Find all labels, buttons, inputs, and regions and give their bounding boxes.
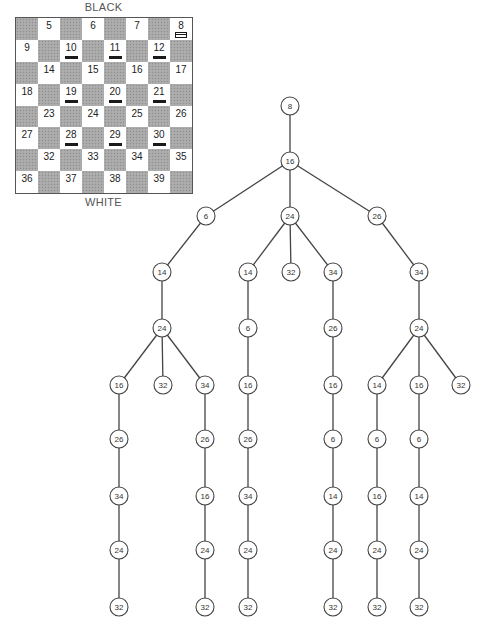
tree-node: 8 bbox=[281, 97, 299, 115]
move-tree: 8166242614143234342462624163234161614163… bbox=[0, 0, 490, 630]
node-label: 32 bbox=[329, 603, 338, 612]
node-label: 34 bbox=[115, 492, 124, 501]
node-label: 24 bbox=[329, 546, 338, 555]
node-label: 24 bbox=[201, 546, 210, 555]
node-label: 34 bbox=[415, 268, 424, 277]
node-label: 14 bbox=[415, 492, 424, 501]
tree-node: 32 bbox=[110, 598, 128, 616]
node-label: 14 bbox=[329, 492, 338, 501]
tree-node: 34 bbox=[239, 487, 257, 505]
tree-node: 26 bbox=[324, 319, 342, 337]
tree-node: 24 bbox=[110, 541, 128, 559]
node-label: 26 bbox=[115, 435, 124, 444]
node-label: 32 bbox=[415, 603, 424, 612]
tree-edge bbox=[162, 216, 206, 272]
tree-node: 32 bbox=[196, 598, 214, 616]
tree-edge bbox=[377, 216, 419, 272]
tree-node: 24 bbox=[410, 541, 428, 559]
node-label: 26 bbox=[373, 212, 382, 221]
tree-node: 6 bbox=[239, 319, 257, 337]
tree-node: 16 bbox=[281, 152, 299, 170]
tree-node: 34 bbox=[324, 263, 342, 281]
node-label: 32 bbox=[201, 603, 210, 612]
node-label: 32 bbox=[287, 268, 296, 277]
node-label: 6 bbox=[331, 435, 336, 444]
tree-edge bbox=[162, 328, 205, 385]
node-label: 26 bbox=[244, 435, 253, 444]
node-label: 24 bbox=[115, 546, 124, 555]
node-label: 16 bbox=[244, 381, 253, 390]
tree-node: 16 bbox=[239, 376, 257, 394]
tree-node: 6 bbox=[324, 430, 342, 448]
node-label: 16 bbox=[286, 157, 295, 166]
tree-edges bbox=[119, 106, 461, 607]
tree-node: 24 bbox=[196, 541, 214, 559]
tree-node: 6 bbox=[368, 430, 386, 448]
tree-node: 32 bbox=[324, 598, 342, 616]
node-label: 32 bbox=[244, 603, 253, 612]
tree-node: 34 bbox=[110, 487, 128, 505]
node-label: 34 bbox=[201, 381, 210, 390]
tree-node: 32 bbox=[154, 376, 172, 394]
node-label: 24 bbox=[373, 546, 382, 555]
node-label: 24 bbox=[244, 546, 253, 555]
node-label: 24 bbox=[158, 324, 167, 333]
node-label: 16 bbox=[115, 381, 124, 390]
tree-edge bbox=[419, 328, 461, 385]
tree-node: 14 bbox=[153, 263, 171, 281]
tree-node: 24 bbox=[410, 319, 428, 337]
node-label: 6 bbox=[417, 435, 422, 444]
tree-edge bbox=[206, 161, 290, 216]
tree-node: 26 bbox=[110, 430, 128, 448]
tree-node: 16 bbox=[324, 376, 342, 394]
tree-edge bbox=[290, 216, 333, 272]
node-label: 34 bbox=[244, 492, 253, 501]
tree-node: 24 bbox=[368, 541, 386, 559]
tree-node: 14 bbox=[239, 263, 257, 281]
node-label: 16 bbox=[201, 492, 210, 501]
tree-node: 34 bbox=[410, 263, 428, 281]
node-label: 32 bbox=[115, 603, 124, 612]
tree-edge bbox=[119, 328, 162, 385]
tree-node: 32 bbox=[410, 598, 428, 616]
node-label: 6 bbox=[246, 324, 251, 333]
node-label: 8 bbox=[288, 102, 293, 111]
tree-node: 24 bbox=[324, 541, 342, 559]
tree-node: 16 bbox=[196, 487, 214, 505]
node-label: 32 bbox=[159, 381, 168, 390]
tree-node: 26 bbox=[239, 430, 257, 448]
tree-edge bbox=[377, 328, 419, 385]
node-label: 34 bbox=[329, 268, 338, 277]
tree-node: 26 bbox=[368, 207, 386, 225]
tree-node: 24 bbox=[153, 319, 171, 337]
tree-node: 32 bbox=[239, 598, 257, 616]
tree-node: 16 bbox=[110, 376, 128, 394]
node-label: 16 bbox=[415, 381, 424, 390]
node-label: 32 bbox=[457, 381, 466, 390]
node-label: 26 bbox=[329, 324, 338, 333]
tree-node: 14 bbox=[410, 487, 428, 505]
node-label: 24 bbox=[415, 324, 424, 333]
tree-node: 6 bbox=[410, 430, 428, 448]
node-label: 32 bbox=[373, 603, 382, 612]
node-label: 6 bbox=[204, 212, 209, 221]
tree-node: 16 bbox=[368, 487, 386, 505]
node-label: 26 bbox=[201, 435, 210, 444]
tree-edge bbox=[248, 216, 290, 272]
tree-node: 26 bbox=[196, 430, 214, 448]
tree-node: 14 bbox=[368, 376, 386, 394]
tree-node: 32 bbox=[282, 263, 300, 281]
tree-node: 24 bbox=[281, 207, 299, 225]
tree-node: 6 bbox=[197, 207, 215, 225]
node-label: 16 bbox=[373, 492, 382, 501]
tree-node: 14 bbox=[324, 487, 342, 505]
tree-node: 34 bbox=[196, 376, 214, 394]
tree-node: 32 bbox=[368, 598, 386, 616]
node-label: 6 bbox=[375, 435, 380, 444]
tree-node: 32 bbox=[452, 376, 470, 394]
tree-node: 24 bbox=[239, 541, 257, 559]
tree-node: 16 bbox=[410, 376, 428, 394]
node-label: 24 bbox=[415, 546, 424, 555]
node-label: 14 bbox=[244, 268, 253, 277]
node-label: 14 bbox=[158, 268, 167, 277]
